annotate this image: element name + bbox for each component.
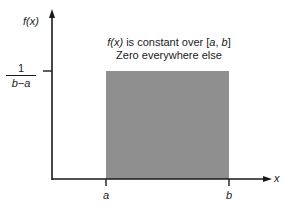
annotation-end: ] (228, 36, 231, 48)
annotation: f(x) is constant over [a, b] Zero everyw… (96, 36, 242, 62)
x-tick-label-b: b (226, 189, 232, 201)
x-tick-label-a: a (103, 189, 109, 201)
uniform-pdf-plot (0, 0, 284, 206)
y-tick-label: 1 b−a (6, 62, 36, 89)
y-tick-numerator: 1 (6, 62, 36, 74)
density-rectangle (106, 71, 229, 179)
y-axis-label: f(x) (23, 15, 39, 27)
annotation-line-2: Zero everywhere else (96, 49, 242, 62)
annotation-func: f(x) (107, 36, 123, 48)
x-axis-label: x (274, 172, 280, 184)
x-axis-arrow-icon (263, 176, 272, 182)
fraction-bar (6, 75, 36, 76)
annotation-line-1: f(x) is constant over [a, b] (96, 36, 242, 49)
y-tick-denominator: b−a (6, 77, 36, 89)
y-axis-arrow-icon (49, 9, 55, 18)
annotation-text: is constant over [ (123, 36, 209, 48)
